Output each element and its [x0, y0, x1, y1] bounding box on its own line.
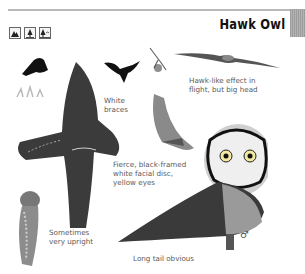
- conifer-forest-habitat-icon: [24, 27, 36, 39]
- caption-long-tail: Long tail obvious: [133, 254, 194, 263]
- branch-sketch-illustration: [148, 46, 168, 76]
- mountain-habitat-icon: [9, 27, 21, 39]
- caption-hawk-like-flight: Hawk-like effect in flight, but big head: [189, 76, 258, 94]
- top-rule: [8, 9, 291, 11]
- gliding-owl-illustration: [172, 50, 282, 72]
- caption-fierce-facial-disc: Fierce, black-framed white facial disc, …: [113, 160, 186, 187]
- male-symbol: ♂: [240, 229, 249, 240]
- caption-white-braces: White braces: [104, 96, 128, 114]
- upright-owl-illustration: [14, 190, 46, 268]
- side-tab: [290, 9, 305, 37]
- forest-edge-habitat-icon: [39, 27, 51, 39]
- page-title: Hawk Owl: [219, 16, 285, 32]
- caption-sometimes-upright: Sometimes very upright: [49, 228, 93, 246]
- habitat-icons: [9, 27, 51, 39]
